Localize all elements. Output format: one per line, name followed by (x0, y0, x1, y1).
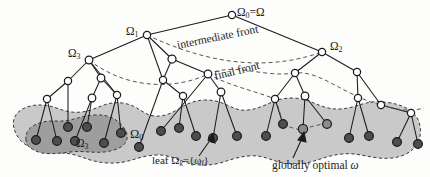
edge-m2-r1 (275, 73, 295, 99)
leaf-node[interactable] (279, 120, 288, 129)
edge-n2-m2 (295, 52, 322, 73)
label-omega3: Ω3 (68, 48, 80, 61)
leaf-node[interactable] (157, 127, 166, 136)
label-globally-optimal: globally optimal ω (272, 160, 359, 172)
search-tree-diagram (0, 0, 430, 177)
leaf-node-globally-optimal[interactable] (298, 124, 307, 133)
label-omega3-region: Ω3 (76, 138, 88, 151)
node-r5[interactable] (407, 109, 414, 116)
leaf-node[interactable] (414, 140, 423, 149)
leaf-node[interactable] (175, 124, 184, 133)
edge-n2-m3 (322, 52, 357, 72)
node-omega3[interactable] (85, 56, 93, 64)
label-leaf-annotation: leaf Ωk={ωl} (152, 155, 209, 168)
node-root-omega0[interactable] (228, 11, 235, 18)
leaf-node-annotated[interactable] (233, 132, 242, 141)
leaf-node[interactable] (117, 129, 126, 138)
label-omega0-region: Ω0 (130, 128, 144, 142)
node-l1[interactable] (64, 77, 71, 84)
leaf-node[interactable] (393, 138, 402, 147)
label-omega1: Ω1 (126, 26, 138, 39)
edge-n1-m4 (147, 35, 163, 80)
node-omega1[interactable] (143, 31, 150, 38)
leaf-node[interactable] (100, 139, 109, 148)
node-l5[interactable] (113, 91, 120, 98)
leaf-node[interactable] (53, 137, 62, 146)
blob-group (13, 98, 420, 165)
node-l4[interactable] (88, 94, 96, 102)
figure-container: Ω0=Ω Ω1 Ω2 Ω3 Ω0 Ω3 intermediate front f… (0, 0, 430, 177)
leaf-node[interactable] (64, 123, 73, 132)
node-r1[interactable] (271, 95, 278, 102)
label-omega2: Ω2 (330, 41, 342, 54)
node-r3[interactable] (354, 94, 361, 101)
node-omega2[interactable] (318, 48, 325, 55)
leaf-node[interactable] (345, 134, 354, 143)
edge-m1-m5 (172, 59, 208, 74)
leaf-node[interactable] (365, 132, 374, 141)
node-m4[interactable] (159, 76, 166, 83)
node-c2[interactable] (217, 88, 225, 96)
leaf-node[interactable] (32, 136, 41, 145)
node-m1[interactable] (168, 55, 176, 63)
leaf-node[interactable] (262, 132, 271, 141)
node-r2[interactable] (301, 92, 309, 100)
node-l2[interactable] (97, 74, 105, 82)
node-r4[interactable] (377, 101, 384, 108)
node-m5[interactable] (204, 70, 212, 78)
edge-n3-l1 (68, 60, 89, 81)
leaf-node-front[interactable] (323, 120, 332, 129)
node-c1[interactable] (179, 92, 186, 99)
node-l3[interactable] (43, 95, 50, 102)
leaf-node[interactable] (83, 123, 92, 132)
label-root-omega0: Ω0=Ω (237, 7, 265, 20)
leaf-node[interactable] (135, 143, 144, 152)
node-m3[interactable] (353, 68, 360, 75)
node-m2[interactable] (291, 69, 298, 76)
leaf-node[interactable] (192, 132, 201, 141)
